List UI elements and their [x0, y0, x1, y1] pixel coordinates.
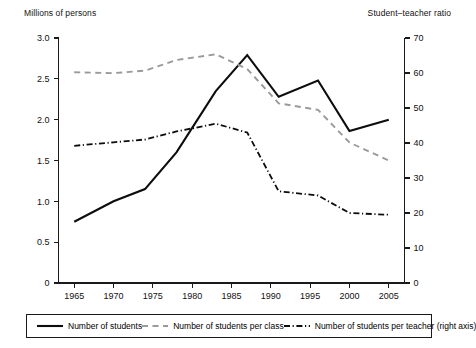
series-line — [74, 54, 389, 160]
left-axis-tick-label: 0 — [44, 278, 49, 288]
right-axis-tick-label: 50 — [414, 103, 424, 113]
legend-swatch — [284, 321, 310, 331]
left-axis-tick-label: 1.0 — [37, 197, 50, 207]
x-axis-tick-label: 1975 — [143, 291, 163, 301]
right-axis: 010203040506070 — [405, 33, 424, 288]
right-axis-tick-label: 20 — [414, 208, 424, 218]
left-axis-tick-label: 0.5 — [37, 237, 50, 247]
legend-item-label: Number of students — [68, 321, 142, 331]
data-series-group — [74, 54, 389, 221]
right-axis-tick-label: 40 — [414, 138, 424, 148]
x-axis: 196519701975198019851990199520002005 — [59, 283, 405, 301]
right-axis-caption: Student–teacher ratio — [368, 8, 451, 18]
left-axis-caption: Millions of persons — [24, 8, 96, 18]
legend-item-label: Number of students per class — [173, 321, 284, 331]
legend-item-label: Number of students per teacher (right ax… — [315, 321, 476, 331]
right-axis-tick-label: 10 — [414, 243, 424, 253]
x-axis-tick-label: 1965 — [64, 291, 84, 301]
legend-item: Number of students — [37, 321, 142, 331]
x-axis-tick-label: 1990 — [261, 291, 281, 301]
x-axis-tick-label: 1970 — [104, 291, 124, 301]
x-axis-tick-label: 1995 — [300, 291, 320, 301]
left-axis-tick-label: 3.0 — [37, 33, 50, 43]
right-axis-tick-label: 70 — [414, 33, 424, 43]
left-axis: 00.51.01.52.02.53.0 — [37, 33, 59, 288]
right-axis-tick-label: 30 — [414, 173, 424, 183]
x-axis-tick-label: 2000 — [339, 291, 359, 301]
legend-swatch — [142, 321, 168, 331]
line-chart-plot: 00.51.01.52.02.53.0 010203040506070 1965… — [0, 0, 459, 310]
series-line — [74, 55, 389, 222]
right-axis-tick-label: 60 — [414, 68, 424, 78]
legend-swatch — [37, 321, 63, 331]
x-axis-tick-label: 1985 — [221, 291, 241, 301]
x-axis-tick-label: 1980 — [182, 291, 202, 301]
left-axis-tick-label: 2.0 — [37, 115, 50, 125]
x-axis-tick-label: 2005 — [379, 291, 399, 301]
series-line — [74, 124, 389, 215]
chart-legend: Number of studentsNumber of students per… — [26, 314, 432, 338]
left-axis-tick-label: 1.5 — [37, 156, 50, 166]
right-axis-tick-label: 0 — [414, 278, 419, 288]
legend-item: Number of students per class — [142, 321, 284, 331]
left-axis-tick-label: 2.5 — [37, 74, 50, 84]
legend-item: Number of students per teacher (right ax… — [284, 321, 476, 331]
